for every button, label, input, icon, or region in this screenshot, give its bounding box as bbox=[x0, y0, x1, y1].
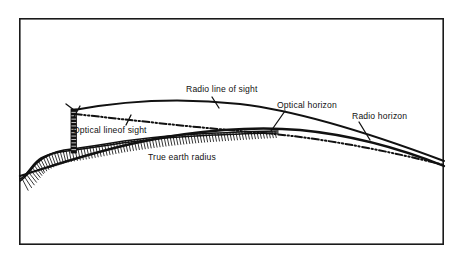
terrain-hatch-tick bbox=[22, 178, 29, 191]
true-earth-radius-curve bbox=[20, 129, 444, 177]
label-optical-line-of-sight: Optical lineof sight bbox=[73, 125, 147, 135]
leader-antenna-top-left bbox=[66, 104, 74, 110]
label-true-earth-radius: True earth radius bbox=[148, 152, 216, 162]
label-radio-horizon: Radio horizon bbox=[352, 111, 407, 121]
terrain-hatch-tick bbox=[26, 174, 34, 185]
label-radio-line-of-sight: Radio line of sight bbox=[186, 84, 258, 94]
horizon-diagram: Radio line of sight Optical lineof sight… bbox=[0, 0, 464, 265]
labels-group: Radio line of sight Optical lineof sight… bbox=[73, 84, 407, 162]
label-optical-horizon: Optical horizon bbox=[277, 100, 337, 110]
leader-radio-horizon bbox=[359, 122, 370, 140]
terrain-hatch-tick bbox=[24, 176, 32, 188]
terrain-hatch-tick bbox=[248, 132, 250, 140]
figure-root: Radio line of sight Optical lineof sight… bbox=[0, 0, 464, 265]
terrain-hatch-tick bbox=[269, 131, 271, 138]
